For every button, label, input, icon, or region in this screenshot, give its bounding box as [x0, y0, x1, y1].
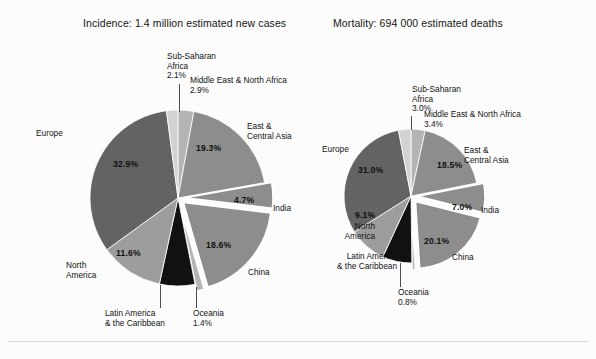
- slice-label-india-incidence: India: [273, 204, 291, 214]
- chart-title-incidence: Incidence: 1.4 million estimated new cas…: [83, 17, 286, 29]
- pie-slice: [159, 198, 195, 286]
- slice-label-latin-america-caribbean-mortality: Latin America & the Caribbean: [315, 252, 397, 271]
- slice-label-middle-east-north-africa-incidence: Middle East & North Africa 2.9%: [190, 76, 287, 95]
- slice-pct-east-central-asia-mortality: 18.5%: [437, 161, 462, 170]
- slice-label-oceania-mortality: Oceania 0.8%: [398, 288, 429, 307]
- footer-divider: [8, 341, 588, 342]
- slice-pct-east-central-asia-incidence: 19.3%: [196, 144, 221, 153]
- slice-pct-india-mortality: 7.0%: [452, 203, 472, 212]
- slice-label-china-incidence: China: [248, 268, 270, 278]
- pie-slice: [90, 111, 178, 250]
- slice-label-east-central-asia-mortality: East & Central Asia: [464, 146, 509, 165]
- pie-slice: [185, 182, 273, 208]
- slice-pct-europe-incidence: 32.9%: [113, 160, 138, 169]
- chart-title-mortality: Mortality: 694 000 estimated deaths: [333, 17, 503, 29]
- leader-line-oceania-mortality: [400, 263, 401, 287]
- pie-slice: [411, 203, 415, 270]
- slice-label-india-mortality: India: [481, 206, 499, 216]
- leader-line-latin-america-incidence: [160, 285, 161, 308]
- leader-line-sub-saharan-africa-mortality: [411, 116, 412, 130]
- slice-pct-north-america-incidence: 11.6%: [116, 249, 141, 258]
- slice-pct-india-incidence: 4.7%: [234, 196, 254, 205]
- slice-label-latin-america-caribbean-incidence: Latin America & the Caribbean: [105, 309, 193, 328]
- slice-pct-china-incidence: 18.6%: [206, 241, 231, 250]
- pie-slice: [166, 110, 178, 198]
- slice-label-europe-mortality: Europe: [322, 145, 349, 155]
- slice-pct-europe-mortality: 31.0%: [358, 166, 383, 175]
- pie-slice: [178, 110, 194, 198]
- pie-chart-mortality: [0, 0, 596, 359]
- pie-slice: [107, 198, 178, 284]
- pie-slice: [180, 205, 205, 291]
- pie-chart-incidence: [0, 0, 596, 359]
- slice-pct-china-mortality: 20.1%: [424, 237, 449, 246]
- pie-slice: [398, 129, 411, 196]
- slice-label-oceania-incidence: Oceania 1.4%: [193, 309, 224, 328]
- slice-label-north-america-incidence: North America: [66, 261, 96, 280]
- slice-pct-north-america-mortality: 9.1%: [355, 211, 375, 220]
- slice-label-europe-incidence: Europe: [36, 129, 63, 139]
- pie-slice: [411, 129, 425, 196]
- slice-label-china-mortality: China: [452, 253, 474, 263]
- slice-label-middle-east-north-africa-mortality: Middle East & North Africa 3.4%: [424, 110, 521, 129]
- figure-canvas: Incidence: 1.4 million estimated new cas…: [0, 0, 596, 359]
- leader-line-oceania-incidence: [196, 287, 197, 308]
- leader-line-sub-saharan-africa-incidence: [179, 84, 180, 112]
- slice-label-north-america-mortality: North America: [323, 222, 375, 241]
- slice-label-east-central-asia-incidence: East & Central Asia: [247, 122, 292, 141]
